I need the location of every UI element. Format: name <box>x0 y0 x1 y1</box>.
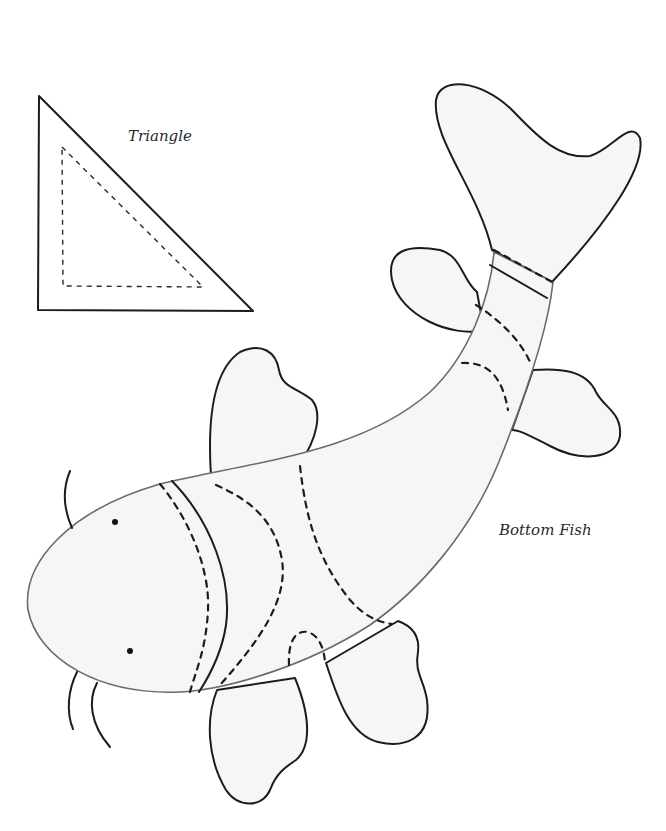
triangle-label: Triangle <box>128 127 192 145</box>
fish-eye-upper <box>112 519 118 525</box>
whisker-bottom-right <box>92 683 110 747</box>
ventral-fin-left <box>210 678 307 804</box>
triangle-seam-line <box>62 147 203 287</box>
fish-eye-lower <box>127 648 133 654</box>
pectoral-fin-upper <box>391 248 484 332</box>
tail-fin <box>436 84 641 282</box>
pattern-canvas <box>0 0 666 831</box>
fish-piece <box>27 84 640 803</box>
whisker-top <box>65 471 72 528</box>
whisker-bottom-left <box>69 672 77 729</box>
bottom-fish-label: Bottom Fish <box>499 521 592 539</box>
